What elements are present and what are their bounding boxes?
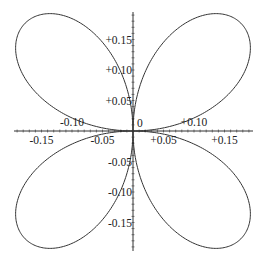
x-tick-label: +0.05 xyxy=(150,134,177,146)
x-tick-label: -0.15 xyxy=(30,134,54,146)
x-tick-label: +0.10 xyxy=(181,116,208,128)
y-tick-label: +0.10 xyxy=(105,64,132,76)
x-tick-label: +0.15 xyxy=(211,134,238,146)
origin-label: 0 xyxy=(137,117,143,129)
y-tick-label: +0.15 xyxy=(105,34,132,46)
x-tick-label: -0.05 xyxy=(91,134,115,146)
y-tick-label: +0.05 xyxy=(105,95,132,107)
y-tick-label: -0.05 xyxy=(108,156,132,168)
polar-rose-chart: -0.15-0.10-0.05+0.05+0.10+0.15+0.15+0.10… xyxy=(0,0,265,261)
y-tick-label: -0.15 xyxy=(108,217,132,229)
y-tick-label: -0.10 xyxy=(108,186,132,198)
x-tick-label: -0.10 xyxy=(60,116,84,128)
